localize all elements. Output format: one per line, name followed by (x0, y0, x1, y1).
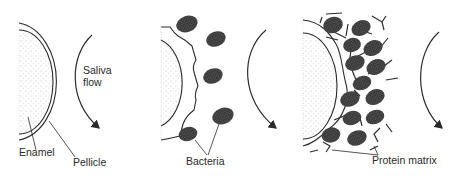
panel-2-bacterial-attachment (161, 13, 276, 155)
saliva-flow-arrow-2 (248, 30, 276, 128)
saliva-flow-label-line1: Saliva (83, 64, 112, 76)
panel-1-clean-enamel (19, 23, 99, 157)
enamel-label: Enamel (19, 146, 55, 158)
panel-3-plaque-matrix (303, 13, 442, 155)
bacteria-leader-2 (208, 124, 219, 155)
saliva-flow-arrow-3 (421, 32, 442, 128)
saliva-flow-label-line2: flow (83, 76, 102, 88)
diagram-canvas (0, 0, 459, 179)
bacteria-label: Bacteria (186, 155, 225, 167)
pellicle-label: Pellicle (73, 156, 106, 168)
bacteria-leader-1 (195, 140, 207, 155)
plaque-formation-diagram: Saliva flow Enamel Pellicle Bacteria Pro… (0, 0, 459, 179)
protein-matrix-label: Protein matrix (372, 154, 437, 166)
